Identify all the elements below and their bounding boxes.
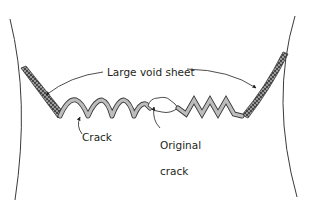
original-crack-blob xyxy=(148,97,178,112)
original-crack-label-line2: crack xyxy=(160,165,201,178)
original-crack-label: Original crack xyxy=(160,126,201,191)
large-void-sheet-label: Large void sheet xyxy=(107,66,195,79)
crack-void-diagram xyxy=(0,0,311,212)
void-arrow-right xyxy=(187,69,256,88)
original-crack-label-line1: Original xyxy=(160,139,201,152)
diagram-canvas: Large void sheet Crack Original crack xyxy=(0,0,311,212)
left-void-sheet xyxy=(21,66,63,118)
crack-label: Crack xyxy=(82,131,112,144)
void-arrow-left xyxy=(46,72,103,95)
right-boundary-curve xyxy=(283,16,297,197)
right-void-sheet xyxy=(242,52,288,118)
left-boundary-curve xyxy=(10,19,21,200)
